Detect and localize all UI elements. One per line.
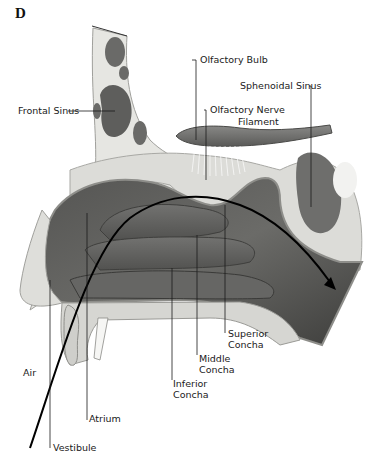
label-olfactory-nerve-1: Olfactory Nerve bbox=[210, 104, 285, 115]
label-superior-concha-2: Concha bbox=[228, 339, 264, 350]
frontal-sinus-cavity-lower bbox=[133, 121, 147, 145]
label-air: Air bbox=[23, 367, 36, 378]
label-middle-concha-1: Middle bbox=[199, 353, 230, 364]
label-middle-concha-2: Concha bbox=[199, 364, 235, 375]
frontal-sinus-cavity-small bbox=[119, 66, 129, 80]
label-inferior-concha-1: Inferior bbox=[173, 378, 207, 389]
label-olfactory-bulb: Olfactory Bulb bbox=[200, 54, 268, 65]
olfactory-bulb bbox=[176, 125, 332, 146]
panel-label: D bbox=[15, 5, 26, 22]
label-frontal-sinus: Frontal Sinus bbox=[18, 105, 79, 116]
label-atrium: Atrium bbox=[89, 413, 121, 424]
frontal-sinus-cavity-top bbox=[105, 37, 125, 67]
label-superior-concha-1: Superior bbox=[228, 328, 268, 339]
label-olfactory-nerve-2: Filament bbox=[238, 116, 279, 127]
label-vestibule: Vestibule bbox=[53, 442, 96, 453]
label-inferior-concha-2: Concha bbox=[173, 389, 209, 400]
label-sphenoidal-sinus: Sphenoidal Sinus bbox=[240, 80, 322, 91]
sphenoid-highlight bbox=[333, 162, 357, 198]
